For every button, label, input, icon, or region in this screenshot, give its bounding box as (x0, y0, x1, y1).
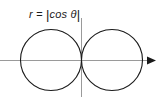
equation-annotation: r = |cos θ| (29, 7, 80, 21)
equation-operator: = (33, 8, 46, 20)
polar-plot-figure: r = |cos θ| (0, 0, 163, 100)
x-axis-arrow-icon (147, 57, 156, 65)
equation-variable-theta: θ (71, 8, 77, 20)
equation-close-bar: | (77, 7, 81, 22)
equation-function: cos (50, 8, 68, 20)
polar-plot-canvas (0, 0, 163, 100)
equation-open-bar: | (46, 7, 50, 22)
